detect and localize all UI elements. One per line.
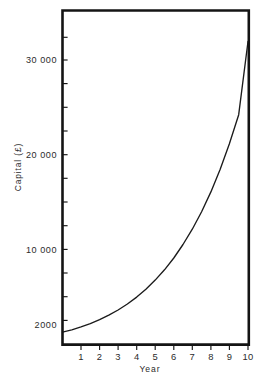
x-tick-label-8: 8 — [208, 351, 214, 362]
x-tick-label-2: 2 — [97, 351, 103, 362]
y-tick-label-2000: 2000 — [35, 320, 57, 330]
y-tick-label-20000: 20 000 — [26, 150, 57, 160]
x-tick-label-5: 5 — [152, 351, 158, 362]
y-tick-label-30000: 30 000 — [26, 55, 57, 65]
x-axis-title: Year — [140, 364, 161, 374]
x-tick-label-4: 4 — [134, 351, 140, 362]
x-tick-label-9: 9 — [227, 351, 233, 362]
x-tick-label-3: 3 — [115, 351, 121, 362]
x-tick-label-1: 1 — [78, 351, 84, 362]
y-tick-label-10000: 10 000 — [26, 245, 57, 255]
chart-figure: 30 000 20 000 10 000 2000 1 2 3 4 5 6 7 … — [0, 0, 262, 375]
capital-growth-line-chart: 30 000 20 000 10 000 2000 1 2 3 4 5 6 7 … — [0, 0, 262, 375]
x-tick-label-10: 10 — [242, 351, 253, 362]
y-axis-title: Capital (£) — [13, 143, 23, 192]
x-tick-label-6: 6 — [171, 351, 177, 362]
x-tick-label-7: 7 — [190, 351, 196, 362]
